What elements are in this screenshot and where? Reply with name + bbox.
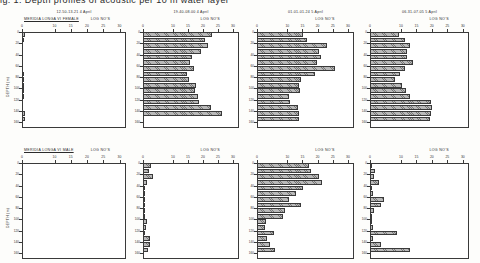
bar — [370, 49, 407, 54]
y-tick-label: 0 — [252, 30, 254, 34]
y-tick-label: 120 — [14, 98, 19, 102]
bar — [143, 94, 198, 99]
bar — [370, 117, 430, 122]
bar — [257, 197, 289, 202]
bar-series — [370, 32, 469, 128]
panel-female-1: 12.50-13.21 4 AprilMERIDIA LONGA VI FEMA… — [2, 10, 130, 132]
y-tick-label: 120 — [249, 229, 254, 233]
y-tick-label: 100 — [249, 86, 254, 90]
bar — [370, 77, 395, 82]
bar-series — [257, 32, 354, 128]
panel-male-1: MERIDIA LONGA VI MALELOG NO'S01015202530… — [2, 141, 130, 263]
x-tick-label: 30 — [461, 24, 465, 28]
bar — [143, 219, 147, 224]
x-tick-label: 10 — [171, 155, 175, 159]
bar — [370, 38, 405, 43]
y-tick-label: 0 — [17, 161, 19, 165]
x-tick-label: 15 — [415, 155, 419, 159]
x-tick-label: 25 — [101, 24, 105, 28]
y-tick-label: 160 — [135, 251, 140, 255]
bar — [370, 60, 413, 65]
y-tick-label: 60 — [363, 195, 367, 199]
bar — [143, 100, 199, 105]
bar — [257, 180, 322, 185]
bar — [257, 191, 296, 196]
y-tick-label: 60 — [250, 64, 254, 68]
bar — [370, 214, 372, 219]
y-tick-label: 80 — [363, 75, 367, 79]
bar — [370, 236, 373, 241]
bar — [257, 248, 275, 253]
bar — [370, 197, 384, 202]
x-axis-title: LOG NO'S — [315, 148, 334, 152]
x-tick-label: 25 — [216, 155, 220, 159]
y-tick-label: 60 — [136, 195, 140, 199]
y-tick-label: 20 — [363, 172, 367, 176]
y-tick-label: 0 — [17, 30, 19, 34]
y-axis-title: DEPTH (m) — [6, 208, 10, 228]
x-tick-label: 0 — [142, 24, 144, 28]
x-axis-title: LOG NO'S — [201, 17, 220, 21]
y-tick-label: 40 — [250, 53, 254, 57]
bar — [370, 83, 402, 88]
bar — [143, 72, 187, 77]
x-tick-label: 15 — [69, 24, 73, 28]
bar — [22, 117, 25, 122]
y-tick-label: 120 — [362, 98, 367, 102]
panel-time-label: 12.50-13.21 4 April — [22, 10, 126, 14]
y-tick-label: 140 — [135, 109, 140, 113]
y-tick-label: 100 — [362, 86, 367, 90]
y-tick-label: 0 — [365, 161, 367, 165]
x-tick-label: 20 — [85, 24, 89, 28]
y-tick-label: 60 — [15, 195, 19, 199]
bar — [370, 248, 410, 253]
bar — [143, 208, 145, 213]
x-tick-label: 20 — [316, 24, 320, 28]
bar — [257, 43, 327, 48]
y-tick-label: 20 — [15, 41, 19, 45]
bar — [143, 169, 149, 174]
bar — [143, 186, 145, 191]
bar — [143, 111, 222, 116]
y-tick-label: 140 — [249, 109, 254, 113]
bar — [22, 77, 24, 82]
bar — [257, 72, 315, 77]
y-tick-label: 20 — [363, 41, 367, 45]
x-tick-label: 15 — [415, 24, 419, 28]
bar-series — [370, 163, 469, 259]
bar — [370, 100, 431, 105]
bar — [143, 43, 208, 48]
bar — [370, 66, 405, 71]
bar — [257, 214, 283, 219]
y-tick-label: 0 — [365, 30, 367, 34]
y-tick-label: 60 — [15, 64, 19, 68]
y-tick-label: 140 — [14, 240, 19, 244]
y-tick-label: 60 — [363, 64, 367, 68]
y-tick-label: 80 — [15, 206, 19, 210]
y-tick-label: 160 — [14, 251, 19, 255]
cut-off-caption: ig. 1. Depth profiles of acoustic per 10… — [0, 0, 480, 7]
x-tick-label: 0 — [21, 24, 23, 28]
panel-male-2: LOG NO'S01015202530020406080100120140160 — [123, 141, 243, 263]
species-label: MERIDIA LONGA VI FEMALE — [24, 17, 79, 21]
bar — [257, 38, 307, 43]
bar — [257, 163, 309, 168]
bar — [143, 77, 189, 82]
y-tick-label: 40 — [136, 184, 140, 188]
y-tick-label: 60 — [250, 195, 254, 199]
y-tick-label: 0 — [252, 161, 254, 165]
x-axis-title: LOG NO'S — [315, 17, 334, 21]
bar-series — [257, 163, 354, 259]
y-tick-label: 20 — [136, 41, 140, 45]
panel-time-label: 01.01-01.24 5 April — [257, 10, 354, 14]
x-tick-label: 25 — [445, 24, 449, 28]
bar — [257, 208, 285, 213]
bar — [143, 163, 151, 168]
y-tick-label: 40 — [363, 53, 367, 57]
x-tick-label: 30 — [461, 155, 465, 159]
x-axis-title: LOG NO'S — [429, 17, 448, 21]
y-tick-label: 40 — [136, 53, 140, 57]
y-tick-label: 40 — [15, 184, 19, 188]
bar — [370, 174, 374, 179]
y-tick-label: 80 — [363, 206, 367, 210]
